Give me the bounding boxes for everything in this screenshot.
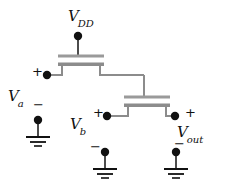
va-label: Va xyxy=(8,88,25,107)
circuit-diagram: VDD Va Vb Vout + − + − + − xyxy=(0,0,227,185)
top-nmos-transistor xyxy=(47,38,144,75)
vout-plus-terminal-dot xyxy=(171,112,179,120)
vb-plus-terminal-dot xyxy=(103,112,111,120)
vdd-terminal-dot xyxy=(74,32,82,40)
vdd-label: VDD xyxy=(68,8,95,27)
vout-minus-sign: − xyxy=(174,137,185,150)
va-plus-terminal-dot xyxy=(43,71,51,79)
ground-va xyxy=(26,122,50,146)
top-nmos-gate-bar xyxy=(58,55,104,58)
vb-minus-terminal-dot xyxy=(101,148,109,156)
bottom-nmos-channel-bar xyxy=(124,104,170,108)
vb-label-sub: b xyxy=(80,126,86,137)
vb-label: Vb xyxy=(70,116,87,135)
circuit-schematic-canvas xyxy=(0,0,227,185)
ground-vb xyxy=(93,154,117,178)
top-nmos-channel-bar xyxy=(58,63,104,67)
top-nmos-drain-wire xyxy=(100,65,144,75)
va-label-sub: a xyxy=(18,98,24,109)
vb-minus-sign: − xyxy=(90,140,101,153)
bottom-nmos-gate-bar xyxy=(124,96,170,99)
bottom-nmos-transistor xyxy=(107,96,175,117)
va-minus-terminal-dot xyxy=(34,116,42,124)
vout-plus-sign: + xyxy=(185,106,196,119)
vout-label-sub: out xyxy=(187,134,203,145)
vb-plus-sign: + xyxy=(93,106,104,119)
ground-vout xyxy=(164,154,188,178)
va-plus-sign: + xyxy=(32,65,43,78)
va-minus-sign: − xyxy=(33,98,44,111)
vdd-label-sub: DD xyxy=(78,18,94,29)
